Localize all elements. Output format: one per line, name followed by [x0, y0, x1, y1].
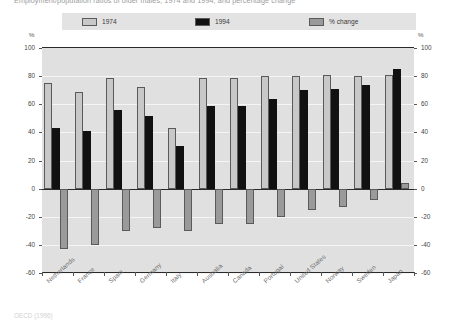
legend-item-1994[interactable]: 1994: [195, 13, 230, 30]
bar-1994: [83, 131, 90, 189]
y-axis-tick-label-left: 40: [28, 128, 35, 135]
bar-1994: [145, 116, 152, 189]
bar-percent-change: [60, 189, 67, 249]
bar-1994: [238, 106, 245, 189]
y-axis-tick-mark-right: [414, 76, 417, 77]
bar-1994: [114, 110, 121, 189]
plot-area: 100100808060604040202000-20-20-40-40-60-…: [42, 47, 414, 273]
y-axis-tick-label-left: 100: [24, 44, 35, 51]
bar-group: [73, 48, 104, 273]
bar-group: [259, 48, 290, 273]
y-axis-tick-label-right: 0: [421, 185, 425, 192]
x-axis-tick-mark: [259, 272, 260, 276]
y-axis-tick-label-right: 40: [421, 128, 428, 135]
y-axis-tick-label-right: 20: [421, 157, 428, 164]
chart-legend: 1974 1994 % change: [62, 13, 416, 30]
bar-group: [290, 48, 321, 273]
x-axis-tick-mark: [352, 272, 353, 276]
bar-group: [166, 48, 197, 273]
y-axis-tick-mark-right: [414, 161, 417, 162]
x-axis-tick-mark: [228, 272, 229, 276]
y-axis-tick-label-right: -60: [421, 269, 430, 276]
bar-group: [321, 48, 352, 273]
bar-1994: [176, 146, 183, 188]
y-axis-tick-label-right: 60: [421, 100, 428, 107]
bar-1994: [52, 128, 59, 188]
x-axis-tick-mark: [383, 272, 384, 276]
chart-title: Employment/population ratios of older ma…: [14, 0, 434, 7]
y-axis-tick-label-left: 0: [31, 185, 35, 192]
x-axis-tick-mark: [197, 272, 198, 276]
bar-percent-change: [246, 189, 253, 224]
bar-percent-change: [308, 189, 315, 210]
bar-1994: [331, 89, 338, 189]
x-axis-tick-mark: [104, 272, 105, 276]
y-axis-tick-label-right: 100: [421, 44, 432, 51]
bar-1974: [168, 128, 175, 188]
bar-1994: [362, 85, 369, 189]
x-axis-tick-mark: [42, 272, 43, 276]
legend-swatch-percent-change: [309, 18, 324, 26]
legend-item-1974[interactable]: 1974: [82, 13, 117, 30]
bar-1994: [269, 99, 276, 189]
y-axis-tick-label-left: -20: [26, 213, 35, 220]
bar-1974: [75, 92, 82, 189]
bar-group: [104, 48, 135, 273]
x-axis-tick-mark: [414, 272, 415, 276]
bar-1974: [44, 83, 51, 188]
legend-swatch-1994: [195, 18, 210, 26]
legend-item-percent-change[interactable]: % change: [309, 13, 358, 30]
y-axis-unit-right: %: [418, 31, 424, 38]
x-axis-tick-mark: [73, 272, 74, 276]
chart-figure: Employment/population ratios of older ma…: [0, 0, 451, 327]
bar-percent-change: [215, 189, 222, 224]
bar-1994: [393, 69, 400, 189]
bar-percent-change: [122, 189, 129, 231]
y-axis-tick-mark-right: [414, 48, 417, 49]
y-axis-tick-label-right: -40: [421, 241, 430, 248]
bar-group: [42, 48, 73, 273]
legend-label-1974: 1974: [102, 18, 117, 25]
bar-percent-change: [91, 189, 98, 245]
bar-1974: [137, 87, 144, 188]
bar-group: [135, 48, 166, 273]
bar-group: [352, 48, 383, 273]
y-axis-tick-label-left: 80: [28, 72, 35, 79]
legend-label-percent-change: % change: [329, 18, 358, 25]
bar-group: [228, 48, 259, 273]
bar-group: [197, 48, 228, 273]
bar-1974: [323, 75, 330, 189]
bar-percent-change: [370, 189, 377, 200]
bar-1974: [230, 78, 237, 189]
bar-1974: [354, 76, 361, 189]
x-axis-tick-mark: [290, 272, 291, 276]
bar-percent-change: [277, 189, 284, 217]
y-axis-tick-mark-right: [414, 132, 417, 133]
source-note: OECD (1996): [14, 312, 53, 319]
bar-1974: [261, 76, 268, 189]
y-axis-tick-label-left: 60: [28, 100, 35, 107]
bar-1974: [385, 75, 392, 189]
y-axis-tick-mark-right: [414, 189, 417, 190]
x-axis-tick-mark: [321, 272, 322, 276]
bar-percent-change: [401, 183, 408, 189]
bar-percent-change: [184, 189, 191, 231]
y-axis-tick-label-left: -60: [26, 269, 35, 276]
y-axis-tick-label-right: -20: [421, 213, 430, 220]
bar-1974: [106, 78, 113, 189]
y-axis-tick-mark-right: [414, 217, 417, 218]
legend-label-1994: 1994: [215, 18, 230, 25]
x-axis-tick-mark: [166, 272, 167, 276]
bar-percent-change: [339, 189, 346, 207]
bar-1994: [207, 106, 214, 189]
bar-1994: [300, 90, 307, 188]
x-axis-tick-mark: [135, 272, 136, 276]
y-axis-tick-mark-right: [414, 104, 417, 105]
legend-swatch-1974: [82, 18, 97, 26]
y-axis-tick-label-left: 20: [28, 157, 35, 164]
y-axis-tick-mark-right: [414, 245, 417, 246]
y-axis-unit-left: %: [29, 31, 35, 38]
bar-percent-change: [153, 189, 160, 228]
y-axis-tick-label-left: -40: [26, 241, 35, 248]
y-axis-tick-label-right: 80: [421, 72, 428, 79]
